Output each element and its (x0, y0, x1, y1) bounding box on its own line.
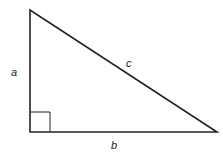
triangle (30, 10, 217, 132)
side-a-label: a (11, 66, 17, 78)
right-angle-marker (30, 112, 50, 132)
right-triangle-diagram: a c b (0, 0, 223, 154)
side-c-label: c (126, 57, 132, 69)
side-b-label: b (111, 139, 117, 151)
